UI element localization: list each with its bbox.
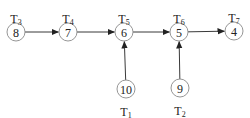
node-label: T2 bbox=[174, 104, 185, 118]
task-graph-diagram: 8T37T46T55T64T710T19T2 bbox=[0, 0, 250, 118]
node-t7: 4T7 bbox=[225, 11, 243, 40]
node-label: T6 bbox=[173, 12, 184, 27]
node-value: 8 bbox=[13, 26, 19, 40]
node-label: T7 bbox=[228, 11, 239, 26]
node-value: 6 bbox=[121, 26, 127, 40]
node-label: T5 bbox=[118, 12, 129, 27]
node-t5: 6T5 bbox=[115, 12, 133, 41]
node-value: 5 bbox=[176, 26, 182, 40]
node-label: T4 bbox=[62, 12, 73, 27]
node-t2: 9T2 bbox=[171, 79, 189, 118]
node-value: 7 bbox=[65, 26, 71, 40]
node-t1: 10T1 bbox=[117, 80, 135, 118]
node-t6: 5T6 bbox=[170, 12, 188, 41]
node-t4: 7T4 bbox=[59, 12, 77, 41]
edge-t6-to-t7 bbox=[188, 31, 225, 32]
node-label: T1 bbox=[120, 105, 131, 118]
node-t3: 8T3 bbox=[7, 12, 25, 41]
node-value: 9 bbox=[177, 82, 183, 96]
node-value: 10 bbox=[120, 83, 132, 97]
edge-t2-to-t6 bbox=[179, 41, 180, 79]
node-value: 4 bbox=[231, 25, 237, 39]
node-label: T3 bbox=[10, 12, 21, 27]
graph-canvas: 8T37T46T55T64T710T19T2 bbox=[0, 0, 250, 118]
edge-t1-to-t5 bbox=[124, 41, 125, 80]
